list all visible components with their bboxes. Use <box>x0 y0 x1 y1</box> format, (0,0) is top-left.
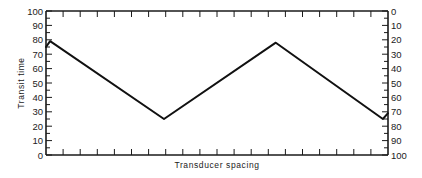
left-tick-label: 70 <box>32 49 43 60</box>
transit-time-line <box>46 41 388 119</box>
right-tick-label: 20 <box>391 34 402 45</box>
right-tick-label: 100 <box>391 150 407 161</box>
right-tick-label: 50 <box>391 78 402 89</box>
right-tick-label: 10 <box>391 20 402 31</box>
right-tick-label: 80 <box>391 121 402 132</box>
right-tick-label: 90 <box>391 135 402 146</box>
left-tick-label: 30 <box>32 106 43 117</box>
left-tick-label: 40 <box>32 92 43 103</box>
left-tick-label: 10 <box>32 135 43 146</box>
y-axis-title: Transit time <box>16 57 26 108</box>
left-y-axis: 0102030405060708090100 <box>27 6 52 161</box>
left-tick-label: 0 <box>38 150 43 161</box>
right-tick-label: 30 <box>391 49 402 60</box>
top-axis-ticks <box>63 11 371 17</box>
left-tick-label: 60 <box>32 63 43 74</box>
left-tick-label: 20 <box>32 121 43 132</box>
left-tick-label: 50 <box>32 78 43 89</box>
right-y-axis: 0102030405060708090100 <box>382 6 407 161</box>
right-tick-label: 0 <box>391 6 396 17</box>
transit-time-chart: 0102030405060708090100 01020304050607080… <box>0 0 422 178</box>
x-axis <box>63 149 371 155</box>
right-tick-label: 70 <box>391 106 402 117</box>
right-tick-label: 40 <box>391 63 402 74</box>
left-tick-label: 90 <box>32 20 43 31</box>
x-axis-title: Transducer spacing <box>174 160 259 170</box>
data-series <box>46 41 388 119</box>
left-tick-label: 100 <box>27 6 43 17</box>
left-tick-label: 80 <box>32 34 43 45</box>
right-tick-label: 60 <box>391 92 402 103</box>
